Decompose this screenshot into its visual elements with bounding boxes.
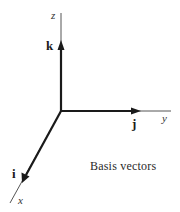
j-vector-label: j: [132, 117, 136, 130]
k-arrowhead-icon: [58, 40, 65, 50]
k-vector-label: k: [46, 39, 53, 52]
y-axis-label: y: [162, 113, 167, 124]
z-axis-label: z: [51, 10, 55, 21]
i-vector-shaft: [26, 111, 61, 175]
x-axis-label: x: [18, 195, 23, 206]
axes-canvas: [0, 0, 180, 212]
basis-vectors-diagram: z k j y i x Basis vectors: [0, 0, 180, 212]
j-arrowhead-icon: [131, 108, 141, 115]
figure-caption: Basis vectors: [90, 160, 156, 172]
i-vector-label: i: [12, 167, 16, 180]
